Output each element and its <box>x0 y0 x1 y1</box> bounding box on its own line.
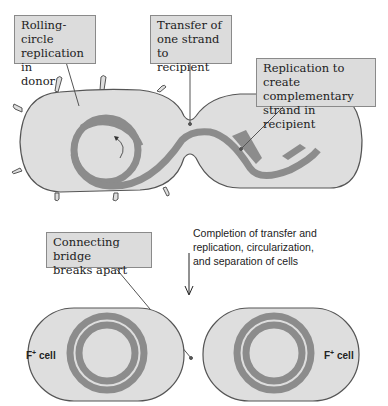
right-cell-label: F+ cell <box>324 349 354 361</box>
callout-transfer: Transfer of one strand to recipient <box>150 15 232 64</box>
step-note: Completion of transfer and replication, … <box>193 226 373 268</box>
process-arrow <box>185 253 193 295</box>
callout-replication: Replication to create complementary stra… <box>256 58 376 107</box>
callout-rolling-circle: Rolling-circle replication in donor <box>14 15 96 64</box>
left-cell-label: F+ cell <box>26 349 56 361</box>
callout-bridge: Connecting bridge breaks apart <box>46 232 152 268</box>
